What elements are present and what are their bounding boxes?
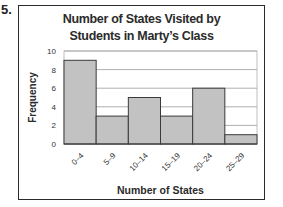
histogram-bar [64,60,96,144]
x-tick-label: 10–14 [128,151,150,173]
y-tick-label: 0 [52,140,57,149]
histogram-bar [193,88,225,144]
histogram-bar [96,116,128,144]
x-tick-label: 20–24 [192,151,214,173]
histogram-plot: 02468100–45–910–1415–1920–2425–29Frequen… [0,0,283,207]
histogram-bar [161,116,193,144]
y-tick-label: 6 [52,84,57,93]
x-tick-label: 0–4 [70,151,86,167]
y-tick-label: 10 [47,47,56,56]
x-axis-label: Number of States [64,184,257,196]
x-tick-label: 15–19 [160,151,182,173]
x-tick-label: 5–9 [102,151,118,167]
y-tick-label: 8 [52,66,57,75]
histogram-bar [128,98,160,145]
y-tick-label: 2 [52,121,57,130]
y-axis-label: Frequency [27,72,38,123]
y-tick-label: 4 [52,103,57,112]
histogram-bar [225,135,257,144]
x-tick-label: 25–29 [224,151,246,173]
